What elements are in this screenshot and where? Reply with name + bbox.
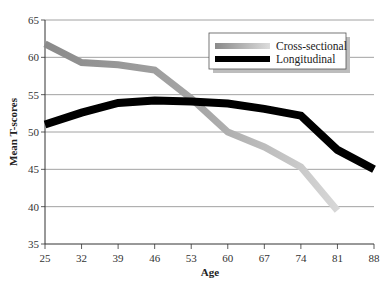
legend-label-longitudinal: Longitudinal: [276, 53, 335, 66]
y-tick-label: 50: [28, 126, 40, 138]
legend-swatch-longitudinal: [215, 56, 270, 62]
x-tick-label: 60: [222, 252, 234, 264]
x-tick-label: 46: [149, 252, 161, 264]
y-tick-label: 35: [28, 238, 40, 250]
x-tick-label: 39: [113, 252, 125, 264]
line-chart: 3540455055606525323946536067748188 Cross…: [0, 0, 392, 290]
x-axis-title: Age: [201, 266, 219, 278]
x-tick-label: 25: [40, 252, 52, 264]
x-tick-label: 32: [76, 252, 87, 264]
legend: Cross-sectional Longitudinal: [209, 33, 350, 73]
x-tick-label: 88: [369, 252, 381, 264]
x-tick-label: 67: [259, 252, 271, 264]
y-tick-label: 40: [28, 201, 40, 213]
y-tick-label: 45: [28, 163, 40, 175]
legend-label-cross-sectional: Cross-sectional: [276, 40, 347, 52]
y-axis-title: Mean T-scores: [7, 97, 19, 166]
legend-swatch-cross-sectional: [215, 43, 270, 49]
x-tick-label: 81: [332, 252, 343, 264]
y-tick-label: 65: [28, 14, 40, 26]
x-tick-label: 53: [186, 252, 198, 264]
y-tick-label: 60: [28, 51, 40, 63]
y-tick-label: 55: [28, 89, 40, 101]
x-tick-label: 74: [295, 252, 307, 264]
